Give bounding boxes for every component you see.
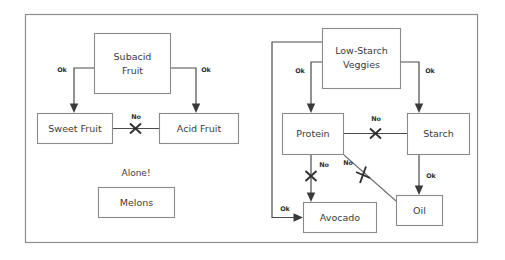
node-label-line1: Melons <box>120 197 154 208</box>
diagram-canvas: Ok Ok No Subacid Fruit Sweet Fruit <box>0 0 505 260</box>
edge-label-ok: Ok <box>426 172 436 180</box>
node-oil[interactable]: Oil <box>397 196 443 226</box>
edge-label-no: No <box>131 113 141 121</box>
node-label-line1: Acid Fruit <box>177 123 222 134</box>
node-box[interactable] <box>95 34 171 94</box>
edge-label-ok: Ok <box>57 66 67 74</box>
node-label-line1: Oil <box>413 205 426 216</box>
node-subacid-fruit[interactable]: Subacid Fruit <box>95 34 171 94</box>
node-sweet-fruit[interactable]: Sweet Fruit <box>38 114 113 144</box>
food-combining-diagram: Ok Ok No Subacid Fruit Sweet Fruit <box>0 0 505 260</box>
node-label-line1: Sweet Fruit <box>48 123 102 134</box>
edge-label-no: No <box>319 161 329 169</box>
node-label-line1: Protein <box>296 128 329 139</box>
edge-label-no: No <box>343 159 353 167</box>
node-low-starch-veggies[interactable]: Low-Starch Veggies <box>323 29 401 89</box>
node-label-line1: Starch <box>423 128 454 139</box>
node-avocado[interactable]: Avocado <box>304 203 377 233</box>
edge-label-ok: Ok <box>425 67 435 75</box>
node-label-line2: Veggies <box>343 59 380 70</box>
edge-label-ok: Ok <box>201 66 211 74</box>
node-starch[interactable]: Starch <box>408 114 470 155</box>
node-acid-fruit[interactable]: Acid Fruit <box>160 114 239 144</box>
node-label-line1: Low-Starch <box>335 45 388 56</box>
node-melons[interactable]: Melons <box>99 188 175 218</box>
edge-label-ok: Ok <box>295 67 305 75</box>
node-label-line1: Avocado <box>320 212 360 223</box>
node-label-line1: Subacid <box>114 51 152 62</box>
node-label-line2: Fruit <box>122 65 143 76</box>
edge-label-ok: Ok <box>280 205 290 213</box>
edge-label-no: No <box>371 115 381 123</box>
node-protein[interactable]: Protein <box>283 114 344 155</box>
alone-note-label: Alone! <box>121 168 150 178</box>
